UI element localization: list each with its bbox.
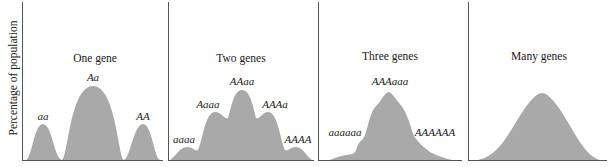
chart-canvas: One gene aa Aa AA Two genes aaaa Aaaa AA… xyxy=(0,0,609,167)
distribution-area xyxy=(170,90,312,160)
peak-label: AAAaaa xyxy=(371,75,409,87)
panel-many-genes: Many genes xyxy=(478,50,600,160)
distribution-area xyxy=(478,93,600,160)
peak-label: AAaa xyxy=(229,75,255,87)
peak-label: Aa xyxy=(86,71,100,83)
panel-title: Three genes xyxy=(362,50,418,63)
panel-title: Many genes xyxy=(511,50,567,63)
peak-label: Aaaa xyxy=(195,98,220,110)
peak-label: aa xyxy=(38,110,50,122)
peak-label: AA xyxy=(135,110,150,122)
panel-one-gene: One gene aa Aa AA xyxy=(26,52,160,160)
distribution-area xyxy=(26,86,160,160)
peak-label: AAAAAA xyxy=(414,126,456,138)
peak-label: AAAA xyxy=(284,133,312,145)
panel-three-genes: Three genes aaaaaa AAAaaa AAAAAA xyxy=(329,50,456,160)
peak-label: AAAa xyxy=(261,98,288,110)
panel-two-genes: Two genes aaaa Aaaa AAaa AAAa AAAA xyxy=(170,52,312,160)
peak-label: aaaaaa xyxy=(329,126,363,138)
peak-label: aaaa xyxy=(173,133,196,145)
panel-title: One gene xyxy=(73,52,117,65)
panel-title: Two genes xyxy=(216,52,266,65)
